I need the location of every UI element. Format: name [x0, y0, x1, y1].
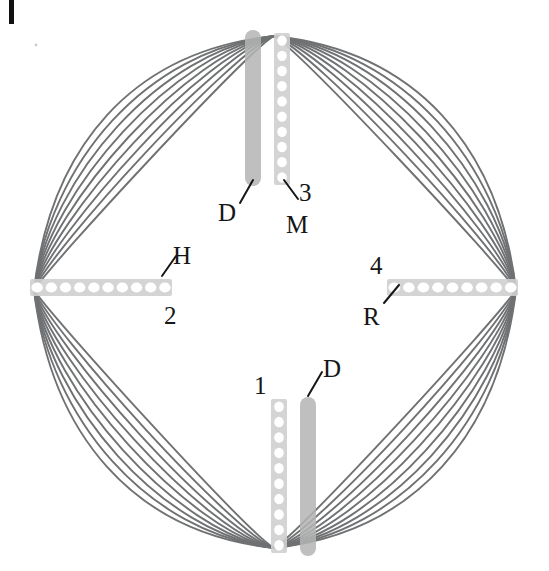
band-bead	[274, 463, 284, 473]
label-num-2: 2	[164, 303, 177, 328]
band-bead	[277, 157, 287, 167]
z-line-band-bottom	[271, 399, 287, 553]
m-line-band-top	[274, 33, 290, 185]
figure-root: DM3H24R1D	[0, 0, 549, 571]
band-bead	[131, 282, 142, 292]
band-bead	[274, 525, 284, 535]
label-num-4: 4	[370, 253, 383, 278]
band-bead	[274, 509, 284, 519]
band-bead	[274, 478, 284, 488]
dense-disc-bottom	[300, 397, 316, 556]
band-bead	[274, 494, 284, 504]
leader-line-D-top	[240, 180, 253, 203]
stray-speck	[35, 44, 38, 47]
band-bead	[274, 417, 284, 427]
label-H-left: H	[173, 243, 191, 268]
band-bead	[102, 282, 113, 292]
dense-disc-top	[245, 30, 261, 186]
label-num-1: 1	[254, 373, 267, 398]
page-edge-tick	[9, 0, 14, 24]
band-bead	[403, 282, 415, 292]
band-bead	[277, 51, 287, 61]
band-bead	[31, 282, 42, 292]
band-bead	[277, 81, 287, 91]
band-bead	[274, 401, 284, 411]
label-R-right: R	[363, 304, 380, 329]
label-num-3: 3	[299, 180, 312, 205]
band-bead	[274, 432, 284, 442]
leader-line-D-bottom	[308, 372, 322, 396]
band-bead	[88, 282, 99, 292]
dense-disc-body	[300, 397, 316, 556]
transverse-bands-layer	[30, 30, 518, 556]
band-bead	[277, 127, 287, 137]
band-bead	[60, 282, 71, 292]
band-bead	[277, 35, 287, 45]
dense-disc-body	[245, 30, 261, 186]
band-bead	[461, 282, 473, 292]
band-bead	[277, 96, 287, 106]
band-bead	[447, 282, 459, 292]
band-bead	[277, 142, 287, 152]
band-bead	[418, 282, 430, 292]
band-bead	[476, 282, 488, 292]
band-bead	[46, 282, 57, 292]
band-bead	[277, 111, 287, 121]
band-bead	[432, 282, 444, 292]
band-bead	[274, 540, 284, 550]
label-D-top: D	[218, 200, 236, 225]
band-bead	[117, 282, 128, 292]
leader-line-M-top	[284, 180, 298, 199]
label-M-top: M	[286, 212, 308, 237]
band-bead	[74, 282, 85, 292]
r-band-right	[387, 279, 518, 296]
band-bead	[277, 66, 287, 76]
band-bead	[274, 448, 284, 458]
label-leader-lines-layer	[162, 180, 399, 396]
diagram-canvas	[0, 0, 549, 571]
label-D-bottom: D	[323, 356, 341, 381]
band-bead	[159, 282, 170, 292]
band-bead	[505, 282, 517, 292]
band-bead	[145, 282, 156, 292]
band-bead	[490, 282, 502, 292]
h-band-left	[30, 279, 172, 296]
page-edge-tick-layer	[9, 0, 37, 46]
